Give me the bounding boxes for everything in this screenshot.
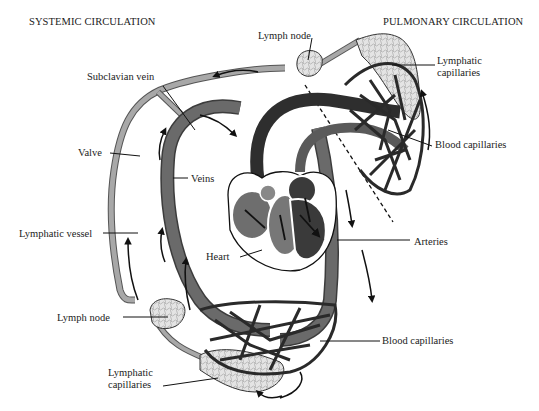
pulmonary-circulation-header: PULMONARY CIRCULATION: [383, 16, 523, 27]
systemic-circulation-header: SYSTEMIC CIRCULATION: [29, 16, 156, 27]
lymph-node-top: [297, 51, 322, 77]
label-lymphatic-vessel: Lymphatic vessel: [19, 228, 92, 240]
label-subclavian-vein: Subclavian vein: [87, 71, 154, 83]
label-heart: Heart: [206, 251, 229, 263]
label-lymphatic-capillaries-bottom-2: capillaries: [108, 379, 151, 391]
label-lymphatic-capillaries-top-1: Lymphatic: [437, 55, 482, 67]
label-lymph-node-bottom: Lymph node: [57, 312, 110, 324]
lymph-node-bottom: [150, 299, 185, 329]
label-arteries: Arteries: [414, 236, 448, 248]
label-blood-capillaries-top: Blood capillaries: [435, 139, 506, 151]
label-lymphatic-capillaries-bottom-1: Lymphatic: [108, 367, 153, 379]
label-valve: Valve: [78, 147, 102, 159]
label-veins: Veins: [191, 173, 214, 185]
label-lymph-node-top: Lymph node: [258, 30, 311, 42]
label-blood-capillaries-bottom: Blood capillaries: [382, 335, 453, 347]
label-lymphatic-capillaries-top-2: capillaries: [437, 67, 480, 79]
